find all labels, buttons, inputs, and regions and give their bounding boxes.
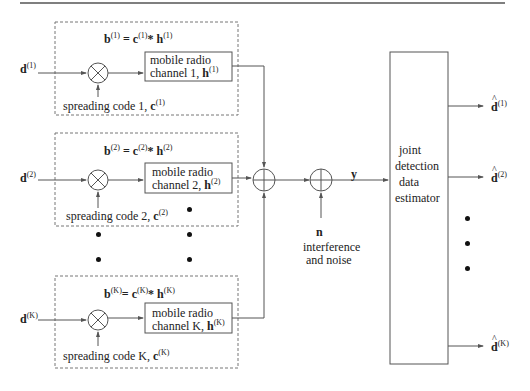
channel-K-to-sum-wire xyxy=(232,193,264,318)
sum-node-icon xyxy=(253,169,275,191)
noise-symbol: n xyxy=(316,226,323,239)
multiplier-K-icon xyxy=(88,310,108,330)
output-dK-label: d(K) xyxy=(491,341,509,354)
channel-2-line2: channel 2, h(2) xyxy=(152,179,220,192)
input-dK-label: d(K) xyxy=(20,313,38,326)
noise-line2: and noise xyxy=(306,254,352,267)
input-d1-label: d(1) xyxy=(20,63,36,76)
input-d2-label: d(2) xyxy=(20,172,36,185)
spreading-code-1-label: spreading code 1, c(1) xyxy=(63,100,165,113)
spreading-code-K-label: spreading code K, c(K) xyxy=(63,350,169,363)
channel-K-line2: channel K, h(K) xyxy=(152,320,225,333)
equation-2: b(2) = c(2)* h(2) xyxy=(104,145,173,158)
equation-K: b(K)= c(K)* h(K) xyxy=(104,288,175,301)
ellipsis-dot xyxy=(96,257,101,262)
ellipsis-dot xyxy=(187,207,192,212)
output-d2-label: d(2) xyxy=(491,172,507,185)
ellipsis-dot xyxy=(187,232,192,237)
detector-line2: detection xyxy=(395,160,439,173)
ellipsis-dot xyxy=(96,232,101,237)
detector-line3: data xyxy=(399,176,419,189)
multiplier-1-icon xyxy=(88,63,108,83)
channel-1-line2: channel 1, h(1) xyxy=(150,67,218,80)
channel-1-to-sum-wire xyxy=(232,66,264,167)
ellipsis-dot xyxy=(465,241,470,246)
y-label: y xyxy=(351,168,357,181)
noise-adder-icon xyxy=(310,169,332,191)
detector-line4: estimator xyxy=(395,192,440,205)
equation-1: b(1) = c(1)* h(1) xyxy=(104,33,173,46)
multiplier-2-icon xyxy=(88,170,108,190)
ellipsis-dot xyxy=(187,257,192,262)
ellipsis-dot xyxy=(465,266,470,271)
joint-detector-box xyxy=(390,52,448,364)
detector-line1: joint xyxy=(399,144,421,157)
diagram-canvas xyxy=(0,0,530,391)
ellipsis-dot xyxy=(465,216,470,221)
output-d1-label: d(1) xyxy=(491,101,507,114)
spreading-code-2-label: spreading code 2, c(2) xyxy=(66,210,168,223)
